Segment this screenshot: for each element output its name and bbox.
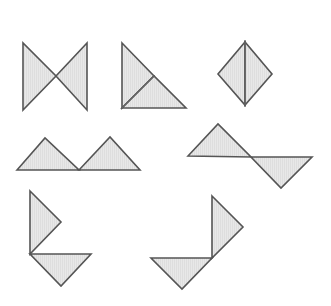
tangram-figures-canvas [0, 0, 331, 306]
figure-canvas-container [0, 0, 331, 306]
